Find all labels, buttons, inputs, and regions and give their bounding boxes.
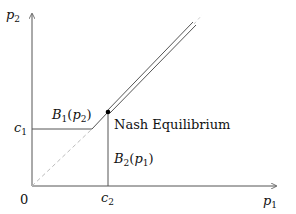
- c1-tick-label: c1: [14, 121, 27, 137]
- diagonal-dashed: [32, 129, 92, 186]
- b1-label: B1(p2): [52, 108, 92, 124]
- nash-equilibrium-label: Nash Equilibrium: [114, 118, 230, 131]
- diagonal-dashed-ext: [194, 15, 202, 24]
- overlap-line-a: [106, 22, 193, 112]
- nash-equilibrium-point: [106, 110, 111, 115]
- y-axis-label: p2: [6, 8, 20, 24]
- c2-tick-label: c2: [101, 191, 114, 207]
- origin-label: 0: [20, 193, 28, 206]
- b2-label: B2(p1): [114, 152, 154, 168]
- x-axis-label: p1: [263, 194, 277, 210]
- diagram-canvas: [0, 0, 296, 214]
- best-response-diagram: p2 p1 0 c1 c2 B1(p2) B2(p1) Nash Equilib…: [0, 0, 296, 214]
- overlap-line-b: [110, 25, 196, 113]
